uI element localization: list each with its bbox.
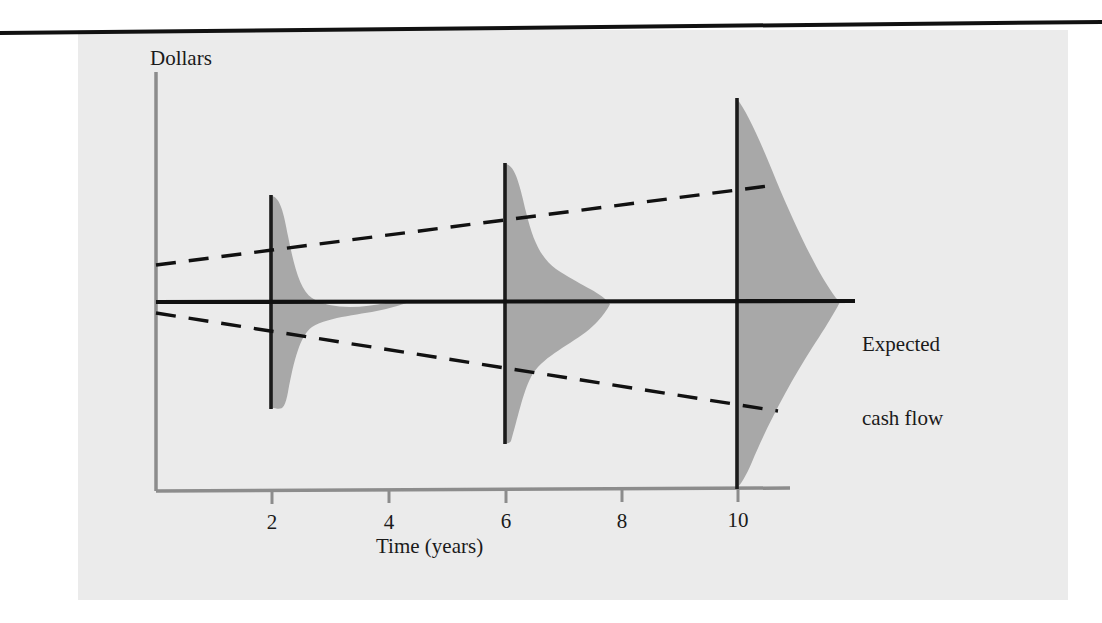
distribution-year-10 bbox=[737, 99, 840, 488]
x-tick-label-4: 4 bbox=[369, 510, 409, 535]
x-axis-line bbox=[156, 488, 790, 491]
lower-dispersion-line bbox=[156, 313, 778, 411]
expected-cash-flow-callout-line1: Expected bbox=[862, 332, 943, 357]
upper-dispersion-line bbox=[156, 186, 768, 265]
distribution-base-lines bbox=[271, 98, 737, 489]
x-axis-label: Time (years) bbox=[376, 534, 483, 559]
figure-container: Dollars Time (years) Expected cash flow … bbox=[0, 0, 1102, 623]
x-tick-label-2: 2 bbox=[252, 510, 292, 535]
expected-cash-flow-callout: Expected cash flow bbox=[862, 282, 943, 480]
expected-cash-flow-callout-line2: cash flow bbox=[862, 406, 943, 431]
distribution-year-6 bbox=[505, 164, 610, 443]
x-tick-label-10: 10 bbox=[718, 508, 758, 533]
distribution-fills bbox=[271, 99, 840, 488]
x-tick-label-6: 6 bbox=[486, 509, 526, 534]
y-axis-label: Dollars bbox=[150, 46, 212, 71]
expected-cash-flow-line bbox=[156, 301, 855, 302]
x-tick-label-8: 8 bbox=[602, 509, 642, 534]
